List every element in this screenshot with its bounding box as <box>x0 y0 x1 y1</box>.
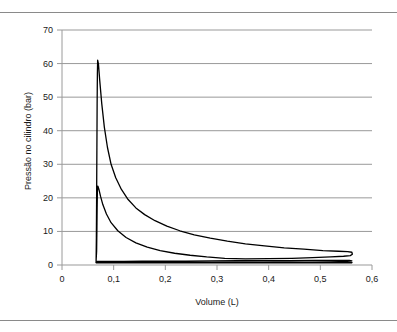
y-tick-label-0: 0 <box>31 260 53 270</box>
y-tick-label-20: 20 <box>31 193 53 203</box>
x-tick-label-2: 0,2 <box>153 274 177 284</box>
x-tick-label-1: 0,1 <box>102 274 126 284</box>
y-tick-label-10: 10 <box>31 226 53 236</box>
y-tick-label-70: 70 <box>31 25 53 35</box>
y-tick-label-40: 40 <box>31 126 53 136</box>
y-tick-label-60: 60 <box>31 59 53 69</box>
x-tick-label-6: 0,6 <box>360 274 384 284</box>
x-axis-title: Volume (L) <box>62 297 372 307</box>
x-tick-label-4: 0,4 <box>257 274 281 284</box>
x-tick-label-0: 0 <box>50 274 74 284</box>
data-series-group <box>96 60 352 263</box>
x-tick-label-3: 0,3 <box>205 274 229 284</box>
x-tick-label-5: 0,5 <box>308 274 332 284</box>
x-tickmarks-group <box>62 265 372 270</box>
y-tick-label-50: 50 <box>31 92 53 102</box>
chart-figure: Pressão no cilindro (bar) Volume (L) 010… <box>0 0 397 332</box>
y-tick-label-30: 30 <box>31 159 53 169</box>
y-tickmarks-group <box>57 30 62 265</box>
gridlines-group <box>62 30 372 265</box>
series-path-0 <box>96 60 352 260</box>
